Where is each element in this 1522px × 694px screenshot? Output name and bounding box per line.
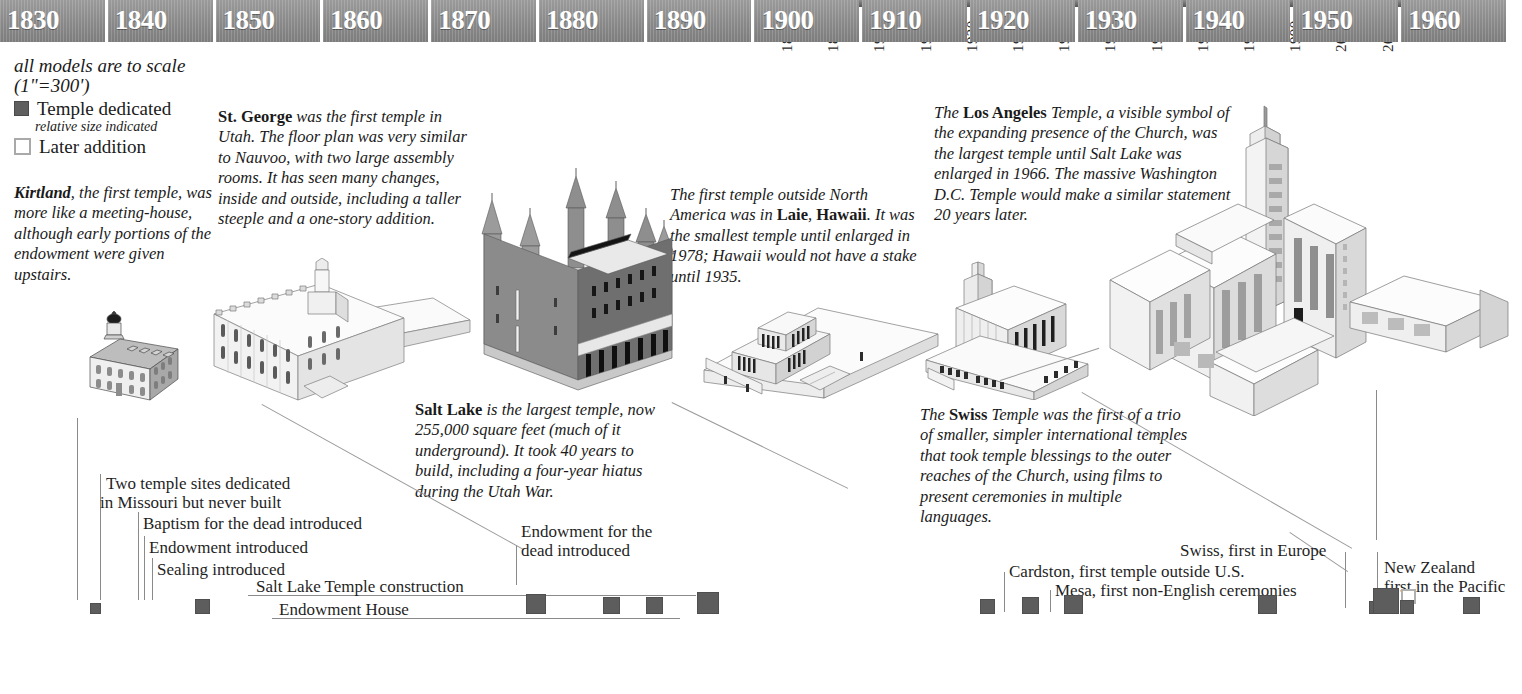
- event-label-missouri-line1: Two temple sites dedicated: [106, 474, 290, 493]
- event-label-salt-lake-construction: Salt Lake Temple construction: [256, 577, 464, 596]
- decade-cell-1910: 1910: [862, 0, 967, 42]
- note-kirtland: Kirtland, the first temple, was more lik…: [14, 183, 226, 285]
- legend-item-dedicated: Temple dedicated: [14, 98, 229, 119]
- legend-dedicated-sublabel: relative size indicated: [35, 119, 229, 134]
- event-label-missouri-line2: in Missouri but never built: [100, 493, 281, 512]
- legend-scale-note-line1: all models are to scale: [14, 56, 229, 76]
- leader-sealing: [152, 558, 153, 600]
- note-swiss-bold1: Swiss: [949, 405, 988, 424]
- timeline-marker-oakland: [1463, 597, 1480, 614]
- leader-swiss-europe: [1345, 552, 1346, 608]
- legend: all models are to scale (1"=300') Temple…: [14, 56, 229, 157]
- model-laie-hawaii: [700, 298, 942, 403]
- connector-los-angeles-drop: [1376, 390, 1377, 540]
- decade-cell-1830: 1830: [0, 0, 105, 42]
- event-label-baptism: Baptism for the dead introduced: [143, 514, 362, 533]
- decade-cell-1920: 1920: [970, 0, 1075, 42]
- timeline-marker-cardston-alberta: [1022, 597, 1039, 614]
- leader-endowment: [144, 536, 145, 600]
- model-los-angeles: [1098, 104, 1518, 416]
- event-label-endowment-dead-line1: Endowment for the: [521, 522, 652, 541]
- decade-label: 1870: [438, 5, 490, 36]
- decade-label: 1910: [869, 5, 921, 36]
- note-laie-bold1: Laie: [777, 205, 808, 224]
- leader-kirtland: [77, 418, 78, 600]
- decade-label: 1950: [1300, 5, 1352, 36]
- timeline-marker-nauvoo: [195, 599, 210, 614]
- note-laie-part2: ,: [808, 205, 816, 224]
- decade-label: 1960: [1408, 5, 1460, 36]
- event-label-swiss-europe: Swiss, first in Europe: [1180, 541, 1326, 560]
- decade-label: 1850: [223, 5, 275, 36]
- decade-cell-1890: 1890: [647, 0, 752, 42]
- leader-endowment-dead: [516, 545, 517, 585]
- decade-cell-1960: 1960: [1401, 0, 1506, 42]
- decade-label: 1840: [115, 5, 167, 36]
- event-label-endowment: Endowment introduced: [149, 538, 308, 557]
- leader-baptism: [138, 512, 139, 600]
- note-los-angeles-part1: The: [934, 103, 963, 122]
- legend-item-later-addition: Later addition: [14, 136, 229, 157]
- timeline-marker-idaho-falls: [1258, 595, 1277, 614]
- decade-cell-1860: 1860: [323, 0, 428, 42]
- decade-label: 1920: [977, 5, 1029, 36]
- leader-mesa: [1050, 590, 1051, 612]
- decade-cell-1900: 1900: [754, 0, 859, 42]
- model-st-george: [208, 258, 473, 403]
- later-addition-swatch-icon: [14, 138, 31, 155]
- timeline-marker-manti: [646, 597, 663, 614]
- legend-dedicated-label: Temple dedicated: [37, 98, 171, 119]
- note-swiss-part1: The: [920, 405, 949, 424]
- event-label-endowment-dead-line2: dead introduced: [521, 541, 630, 560]
- event-label-cardston: Cardston, first temple outside U.S.: [1009, 562, 1245, 581]
- model-salt-lake: [468, 168, 690, 400]
- decade-cell-1930: 1930: [1078, 0, 1183, 42]
- timeline-marker-st-george: [526, 594, 546, 614]
- note-laie-bold2: Hawaii: [816, 205, 866, 224]
- event-label-endowment-house: Endowment House: [279, 600, 409, 619]
- legend-later-addition-label: Later addition: [39, 136, 146, 157]
- note-laie: The first temple outside North America w…: [670, 185, 920, 287]
- timeline-marker-los-angeles: [1373, 588, 1399, 614]
- decade-label: 1900: [761, 5, 813, 36]
- timeline-marker-mesa-arizona: [1064, 595, 1083, 614]
- note-los-angeles-bold1: Los Angeles: [963, 103, 1047, 122]
- decade-cell-1870: 1870: [431, 0, 536, 42]
- decade-label: 1880: [546, 5, 598, 36]
- decade-label: 1830: [7, 5, 59, 36]
- timeline-marker-logan: [603, 597, 620, 614]
- decade-axis: 1830184018501860187018801890190019101920…: [0, 0, 1506, 42]
- note-kirtland-lead: Kirtland: [14, 183, 71, 202]
- note-st-george-lead: St. George: [218, 107, 292, 126]
- timeline-marker-kirtland: [90, 603, 101, 614]
- decade-label: 1930: [1085, 5, 1137, 36]
- event-label-new-zealand-line1: New Zealand: [1384, 558, 1475, 577]
- note-salt-lake: Salt Lake is the largest temple, now 255…: [415, 400, 663, 502]
- note-st-george: St. George was the first temple in Utah.…: [218, 107, 476, 229]
- note-swiss: The Swiss Temple was the first of a trio…: [920, 405, 1192, 527]
- decade-cell-1850: 1850: [216, 0, 321, 42]
- timeline-marker-salt-lake: [697, 592, 719, 614]
- timeline-marker-laie-hawaii: [980, 599, 995, 614]
- decade-cell-1880: 1880: [539, 0, 644, 42]
- decade-label: 1860: [330, 5, 382, 36]
- decade-label: 1940: [1193, 5, 1245, 36]
- connector-salt-lake: [672, 402, 849, 489]
- model-kirtland: [72, 305, 197, 405]
- decade-cell-1950: 1950: [1293, 0, 1398, 42]
- dedicated-swatch-icon: [14, 101, 29, 116]
- leader-cardston: [1004, 572, 1005, 612]
- decade-cell-1840: 1840: [108, 0, 213, 42]
- decade-label: 1890: [654, 5, 706, 36]
- legend-scale-note-line2: (1"=300'): [14, 76, 229, 96]
- timeline-marker-london-england: [1400, 600, 1414, 614]
- decade-cell-1940: 1940: [1186, 0, 1291, 42]
